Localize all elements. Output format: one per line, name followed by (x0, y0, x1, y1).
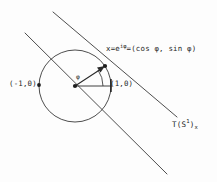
tangent-space-label: T(S1)x (172, 119, 198, 131)
angle-label: φ (76, 74, 80, 80)
tangent-line (53, 12, 177, 117)
point-x-label-exponent: iφ (120, 43, 127, 49)
point-x-label-suffix: =(cos φ, sin φ) (127, 44, 197, 53)
left-point-label: (-1,0) (9, 80, 37, 87)
tangent-space-subscript: x (195, 124, 198, 130)
tangent-space-base: T(S (172, 120, 186, 129)
point-x-label: x=eiφ=(cos φ, sin φ) (106, 44, 196, 53)
math-figure: x=eiφ=(cos φ, sin φ) (-1,0) (1,0) φ T(S1… (0, 0, 217, 182)
right-point-label: (1,0) (110, 80, 133, 87)
point-x-label-prefix: x=e (106, 44, 120, 53)
point-minus-one-dot (37, 83, 41, 87)
point-x-dot (103, 64, 107, 68)
figure-canvas (0, 0, 217, 182)
parallel-secant-line (25, 33, 167, 174)
origin-dot (73, 84, 77, 88)
